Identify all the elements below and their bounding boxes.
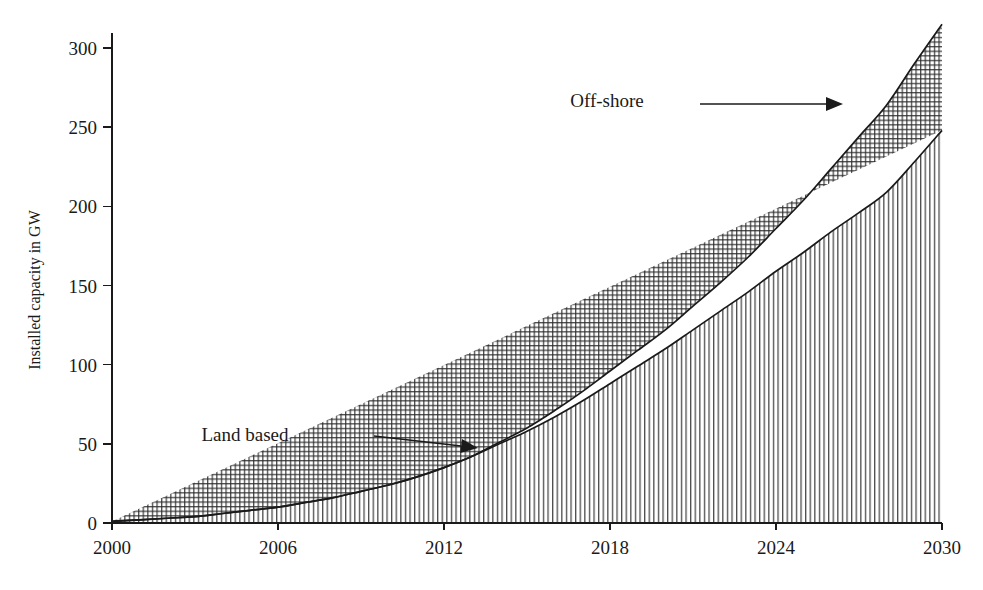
y-tick-label-150: 150 <box>69 276 98 297</box>
y-tick-label-300: 300 <box>69 38 98 59</box>
y-tick-label-200: 200 <box>69 196 98 217</box>
x-tick-label-2018: 2018 <box>591 537 629 558</box>
y-axis-title: Installed capacity in GW <box>26 209 44 369</box>
y-tick-label-50: 50 <box>78 434 97 455</box>
x-tick-label-2000: 2000 <box>93 537 131 558</box>
y-tick-label-250: 250 <box>69 117 98 138</box>
wind-capacity-area-chart: 050100150200250300 200020062012201820242… <box>0 0 983 590</box>
annotation-label-land-based: Land based <box>201 424 289 445</box>
chart-container: 050100150200250300 200020062012201820242… <box>0 0 983 590</box>
y-tick-label-0: 0 <box>88 513 98 534</box>
x-tick-label-2030: 2030 <box>923 537 961 558</box>
x-tick-label-2012: 2012 <box>425 537 463 558</box>
annotation-label-off-shore: Off-shore <box>570 90 644 111</box>
x-tick-label-2006: 2006 <box>259 537 297 558</box>
y-tick-label-100: 100 <box>69 355 98 376</box>
x-tick-label-2024: 2024 <box>757 537 796 558</box>
